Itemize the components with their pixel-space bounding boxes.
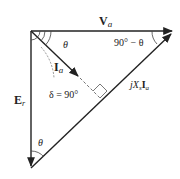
- theta-top-label: θ: [63, 39, 68, 50]
- theta-arc-bottom: [31, 151, 44, 157]
- phasor-diagram: Va θ 90° − θ Ia δ = 90° jXsIa Er θ: [0, 0, 180, 179]
- theta-bottom-label: θ: [38, 137, 43, 148]
- jxs-ia-phasor-arrow: [31, 34, 171, 168]
- right-angle-marker: [93, 84, 107, 98]
- delta-label: δ = 90°: [49, 89, 78, 100]
- ia-label: Ia: [54, 60, 64, 75]
- angle-90-minus-theta-label: 90° − θ: [114, 37, 144, 48]
- va-label: Va: [99, 14, 113, 29]
- right-angle-arc: [152, 31, 157, 44]
- jxs-ia-label: jXsIa: [128, 79, 150, 92]
- ia-dashed-extension: [80, 78, 100, 98]
- theta-arc-top-2: [41, 31, 45, 41]
- theta-arc-top: [46, 31, 52, 45]
- er-label: Er: [14, 93, 26, 108]
